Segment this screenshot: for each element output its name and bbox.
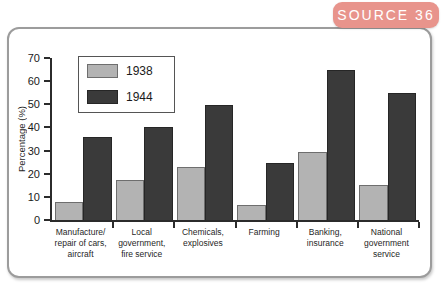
y-tick-50 xyxy=(44,103,50,105)
bar-group-3 xyxy=(235,58,296,220)
bar-group-2 xyxy=(175,58,236,220)
bar-1944-2 xyxy=(205,105,233,220)
bar-1938-3 xyxy=(237,205,265,220)
bar-1938-2 xyxy=(177,167,205,220)
bar-1944-0 xyxy=(83,137,111,220)
legend: 19381944 xyxy=(78,56,175,113)
legend-swatch-1938 xyxy=(87,64,118,78)
legend-label-1938: 1938 xyxy=(126,64,153,78)
y-tick-30 xyxy=(44,150,50,152)
source-tab-label: SOURCE 36 xyxy=(337,7,434,23)
category-label-0: Manufacture/repair of cars,aircraft xyxy=(50,227,111,260)
bar-1944-1 xyxy=(144,127,172,220)
y-tick-label-0: 0 xyxy=(10,214,40,226)
x-axis-labels: Manufacture/repair of cars,aircraftLocal… xyxy=(50,227,417,260)
bar-group-5 xyxy=(357,58,418,220)
y-tick-20 xyxy=(44,173,50,175)
y-tick-10 xyxy=(44,196,50,198)
category-label-4: Banking,insurance xyxy=(295,227,356,260)
legend-row-1938: 1938 xyxy=(87,64,166,78)
bar-1938-1 xyxy=(116,180,144,221)
y-tick-70 xyxy=(44,57,50,59)
legend-label-1944: 1944 xyxy=(126,90,153,104)
y-tick-label-30: 30 xyxy=(10,145,40,157)
y-tick-label-70: 70 xyxy=(10,52,40,64)
bar-1944-3 xyxy=(266,163,294,220)
x-tick-6 xyxy=(418,222,420,228)
y-tick-label-40: 40 xyxy=(10,121,40,133)
y-tick-0 xyxy=(44,219,50,221)
category-label-1: Localgovernment,fire service xyxy=(111,227,172,260)
category-label-2: Chemicals,explosives xyxy=(172,227,233,260)
chart-panel: Percentage (%) 19381944 010203040506070 … xyxy=(7,27,432,278)
y-tick-label-50: 50 xyxy=(10,98,40,110)
bar-1938-5 xyxy=(359,185,387,220)
legend-swatch-1944 xyxy=(87,90,118,104)
bar-1944-4 xyxy=(327,70,355,220)
plot-area: 19381944 010203040506070 xyxy=(50,58,419,222)
legend-row-1944: 1944 xyxy=(87,90,166,104)
y-tick-label-10: 10 xyxy=(10,191,40,203)
source-tab: SOURCE 36 xyxy=(333,2,439,28)
bar-1938-4 xyxy=(298,152,326,220)
bar-1944-5 xyxy=(388,93,416,220)
category-label-3: Farming xyxy=(234,227,295,260)
y-tick-60 xyxy=(44,80,50,82)
bar-group-4 xyxy=(296,58,357,220)
y-tick-label-20: 20 xyxy=(10,168,40,180)
category-label-5: Nationalgovernmentservice xyxy=(356,227,417,260)
page: SOURCE 36 Percentage (%) 19381944 010203… xyxy=(0,0,442,287)
y-tick-40 xyxy=(44,126,50,128)
y-tick-label-60: 60 xyxy=(10,75,40,87)
bar-1938-0 xyxy=(55,202,83,221)
